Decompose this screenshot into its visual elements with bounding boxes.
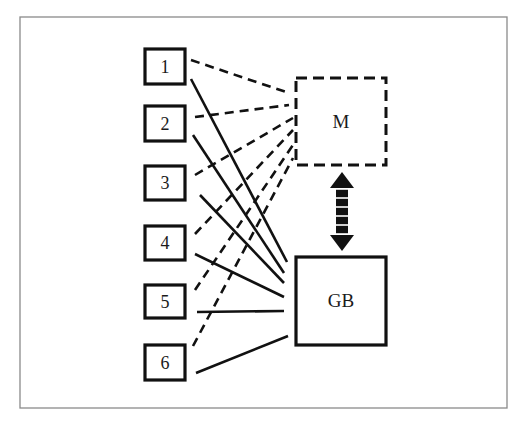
arrow-shaft-segment: [336, 217, 348, 224]
node-gb[interactable]: GB: [296, 257, 386, 345]
node-label: 2: [161, 114, 170, 134]
arrowhead-down-icon: [330, 235, 354, 251]
arrow-shaft-segment: [336, 190, 348, 197]
node-label: GB: [328, 290, 354, 311]
node-1[interactable]: 1: [145, 49, 185, 84]
node-5[interactable]: 5: [145, 285, 185, 318]
arrow-shaft-segment: [336, 208, 348, 215]
edges-layer: [191, 60, 293, 373]
edge-5-to-gb-solid: [197, 311, 284, 312]
node-label: 5: [161, 292, 170, 312]
edge-1-to-m-dashed: [191, 60, 289, 93]
edge-6-to-gb-solid: [196, 336, 288, 373]
m-gb-double-arrow: [330, 172, 354, 251]
edge-6-to-m-dashed: [193, 158, 293, 346]
node-label: 4: [161, 233, 170, 253]
arrow-shaft-segment: [336, 199, 348, 206]
node-4[interactable]: 4: [145, 226, 185, 260]
node-3[interactable]: 3: [145, 166, 185, 200]
arrow-shaft-segment: [336, 226, 348, 233]
node-label: 3: [161, 173, 170, 193]
node-m[interactable]: M: [296, 78, 386, 165]
node-label: M: [333, 111, 350, 132]
arrowhead-up-icon: [330, 172, 354, 188]
node-2[interactable]: 2: [145, 106, 185, 141]
nodes-layer: 123456MGB: [145, 49, 386, 380]
diagram-canvas: 123456MGB: [0, 0, 523, 425]
node-6[interactable]: 6: [145, 345, 185, 380]
node-label: 6: [161, 353, 170, 373]
node-label: 1: [161, 57, 170, 77]
